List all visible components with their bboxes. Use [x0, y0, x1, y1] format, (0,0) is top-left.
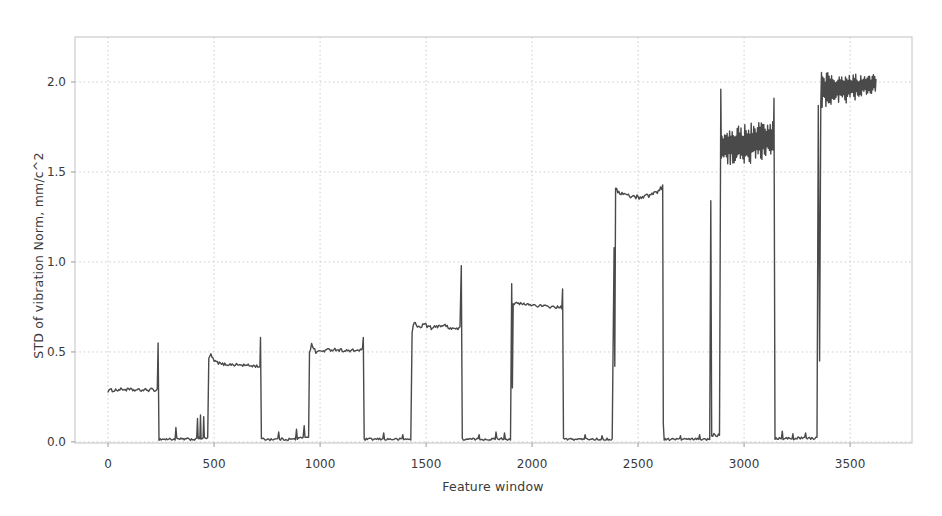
y-tick-label: 0.0: [47, 435, 66, 449]
x-tick-label: 500: [203, 457, 226, 471]
scanned-figure-page: 05001000150020002500300035000.00.51.01.5…: [0, 0, 942, 516]
y-tick-label: 1.5: [47, 165, 66, 179]
x-tick-label: 3500: [835, 457, 866, 471]
y-tick-label: 2.0: [47, 75, 66, 89]
y-tick-label: 0.5: [47, 345, 66, 359]
vibration-std-chart: 05001000150020002500300035000.00.51.01.5…: [0, 0, 942, 516]
x-tick-label: 1000: [305, 457, 336, 471]
x-axis-label: Feature window: [343, 479, 643, 494]
x-tick-label: 2000: [517, 457, 548, 471]
y-axis-label: STD of vibration Norm, mm/c^2: [31, 126, 46, 386]
y-tick-label: 1.0: [47, 255, 66, 269]
chart-canvas: 05001000150020002500300035000.00.51.01.5…: [0, 0, 942, 516]
x-tick-label: 3000: [729, 457, 760, 471]
x-tick-label: 0: [104, 457, 112, 471]
x-tick-label: 2500: [623, 457, 654, 471]
vibration-std-line: [108, 73, 876, 441]
plot-border: [75, 37, 912, 443]
x-tick-label: 1500: [411, 457, 442, 471]
